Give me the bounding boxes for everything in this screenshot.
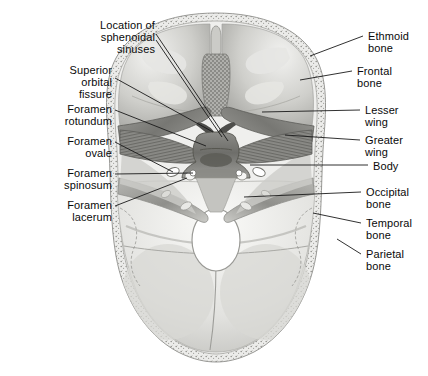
label-line: sinuses — [53, 43, 155, 55]
label-line: Parietal — [366, 248, 428, 260]
label-lesser-wing: Lesserwing — [365, 104, 425, 128]
label-line: ovale — [32, 147, 112, 159]
label-line: Greater — [365, 134, 427, 146]
label-superior-orbital-fissure: Superiororbitalfissure — [40, 64, 112, 101]
label-frontal-bone: Frontalbone — [357, 65, 421, 89]
foramen-spinosum — [236, 170, 242, 176]
label-sphenoidal-sinuses: Location ofsphenoidalsinuses — [53, 19, 155, 56]
leader-ethmoid-bone — [310, 36, 363, 56]
label-ethmoid-bone: Ethmoidbone — [368, 30, 428, 54]
label-line: bone — [366, 260, 428, 272]
label-line: sphenoidal — [53, 31, 155, 43]
label-foramen-ovale: Foramenovale — [32, 135, 112, 159]
label-line: fissure — [40, 88, 112, 100]
label-line: rotundum — [32, 115, 112, 127]
label-line: Frontal — [357, 65, 421, 77]
label-line: Superior — [40, 64, 112, 76]
crista-galli — [211, 26, 221, 55]
label-line: Foramen — [14, 199, 112, 211]
label-line: bone — [366, 198, 428, 210]
label-line: Body — [373, 160, 423, 172]
label-line: Foramen — [32, 135, 112, 147]
label-parietal-bone: Parietalbone — [366, 248, 428, 272]
label-line: Location of — [53, 19, 155, 31]
label-foramen-spinosum: Foramenspinosum — [14, 167, 112, 191]
label-line: orbital — [40, 76, 112, 88]
label-line: bone — [368, 42, 428, 54]
leader-parietal-bone — [337, 239, 361, 254]
label-line: Occipital — [366, 186, 428, 198]
label-temporal-bone: Temporalbone — [366, 217, 428, 241]
label-greater-wing: Greaterwing — [365, 134, 427, 158]
label-line: Ethmoid — [368, 30, 428, 42]
label-line: bone — [366, 229, 428, 241]
label-foramen-lacerum: Foramenlacerum — [14, 199, 112, 223]
label-line: bone — [357, 77, 421, 89]
label-body: Body — [373, 160, 423, 172]
label-line: Foramen — [14, 167, 112, 179]
label-line: Temporal — [366, 217, 428, 229]
label-line: Foramen — [32, 103, 112, 115]
label-occipital-bone: Occipitalbone — [366, 186, 428, 210]
label-line: Lesser — [365, 104, 425, 116]
label-line: wing — [365, 146, 427, 158]
label-line: wing — [365, 116, 425, 128]
label-line: lacerum — [14, 211, 112, 223]
label-line: spinosum — [14, 179, 112, 191]
cribriform-plate — [202, 54, 230, 116]
label-foramen-rotundum: Foramenrotundum — [32, 103, 112, 127]
